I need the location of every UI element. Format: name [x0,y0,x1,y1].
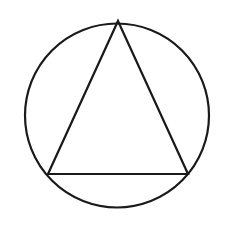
geometry-figure [0,0,238,228]
canvas-background [0,0,238,228]
figure-canvas [0,0,238,228]
